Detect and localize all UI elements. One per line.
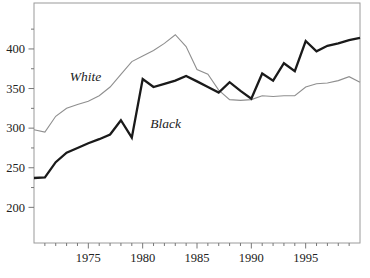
y-tick-label: 400 [6, 42, 25, 56]
x-tick-label: 1985 [185, 251, 210, 265]
series-label-black: Black [150, 116, 182, 131]
chart-figure: 20025030035040019751980198519901995White… [0, 0, 370, 278]
line-chart: 20025030035040019751980198519901995White… [0, 0, 370, 278]
x-tick-label: 1975 [76, 251, 101, 265]
x-tick-label: 1995 [293, 251, 318, 265]
x-tick-label: 1980 [130, 251, 155, 265]
x-tick-label: 1990 [239, 251, 264, 265]
y-tick-label: 250 [6, 161, 25, 175]
plot-frame [34, 3, 360, 243]
y-tick-label: 350 [6, 82, 25, 96]
series-label-white: White [70, 69, 102, 84]
y-tick-label: 200 [6, 201, 25, 215]
y-tick-label: 300 [6, 121, 25, 135]
series-line-black [34, 38, 360, 178]
